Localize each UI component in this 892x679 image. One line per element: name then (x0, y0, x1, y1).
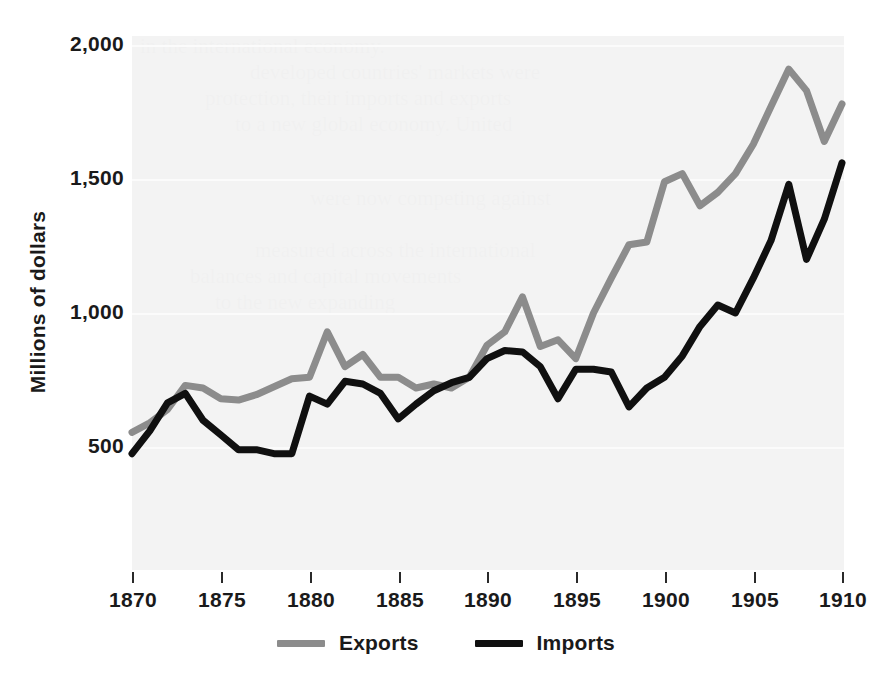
gridline (132, 313, 844, 315)
gridline (132, 45, 844, 47)
x-axis-tick-label: 1890 (453, 588, 523, 612)
x-axis-tick-label: 1895 (542, 588, 612, 612)
y-axis-tick-label: 1,000 (38, 300, 124, 324)
x-axis-tick (399, 572, 401, 583)
y-axis-tick-label: 1,500 (38, 166, 124, 190)
legend-item-imports: Imports (475, 631, 615, 655)
x-axis-tick-label: 1870 (98, 588, 168, 612)
x-axis-tick (310, 572, 312, 583)
legend-swatch-exports (277, 640, 325, 647)
x-axis-tick-label: 1875 (187, 588, 257, 612)
y-axis-tick-label: 2,000 (38, 32, 124, 56)
x-axis-tick (754, 572, 756, 583)
x-axis-tick (842, 572, 844, 583)
x-axis-tick-label: 1880 (276, 588, 346, 612)
gridline (132, 447, 844, 449)
x-axis-tick (487, 572, 489, 583)
gridline (132, 179, 844, 181)
x-axis-tick (132, 572, 134, 583)
plot-area (132, 36, 844, 570)
x-axis-tick (665, 572, 667, 583)
x-axis-tick-label: 1900 (631, 588, 701, 612)
y-axis-tick-label: 500 (38, 434, 124, 458)
legend-label-imports: Imports (537, 631, 615, 655)
legend-item-exports: Exports (277, 631, 419, 655)
chart-figure: in the international economy. developed … (0, 0, 892, 679)
y-axis-title: Millions of dollars (26, 182, 50, 422)
legend-label-exports: Exports (339, 631, 419, 655)
x-axis-tick-label: 1885 (365, 588, 435, 612)
legend-swatch-imports (475, 640, 523, 647)
x-axis-tick-label: 1905 (720, 588, 790, 612)
x-axis-tick (576, 572, 578, 583)
x-axis-tick-label: 1910 (808, 588, 878, 612)
x-axis-tick (221, 572, 223, 583)
chart-legend: Exports Imports (0, 631, 892, 655)
